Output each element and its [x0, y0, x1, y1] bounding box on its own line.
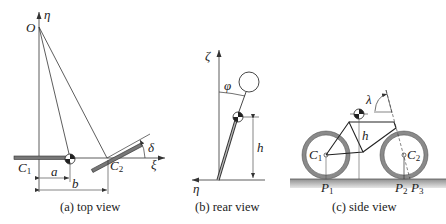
lean-angle-label: φ — [224, 78, 231, 93]
lean-angle-arc — [219, 92, 245, 96]
steer-direction-line — [107, 134, 150, 158]
xi-axis-label: ξ — [151, 157, 157, 172]
dimension-a-label: a — [51, 164, 58, 179]
height-label: h — [257, 140, 264, 155]
rear-hub-label: C1 — [309, 147, 322, 163]
eta-axis-rear-label: η — [193, 181, 199, 196]
center-of-mass-icon — [354, 109, 364, 119]
head-angle-label: λ — [365, 92, 372, 107]
front-hub — [402, 153, 406, 157]
rear-view-panel: ζ η φ h (b) rear view — [192, 48, 265, 214]
bicycle-frame — [326, 122, 363, 155]
side-view-panel: λ h C1 C2 P1 P2 P3 (c) side view — [290, 90, 446, 214]
ray-to-com — [39, 27, 70, 158]
side-view-caption: (c) side view — [332, 200, 397, 214]
front-hub-label: C2 — [407, 147, 420, 163]
dimension-b-label: b — [72, 176, 79, 191]
c2-label: C2 — [110, 158, 123, 174]
head-angle-arc — [375, 94, 387, 111]
steer-angle-arc — [140, 140, 145, 158]
top-view-panel: η O ξ δ C1 C2 a — [14, 7, 165, 214]
center-of-mass-icon — [233, 112, 243, 122]
com-height-label: h — [362, 128, 369, 143]
origin-label: O — [26, 20, 36, 35]
rear-wheel-top — [14, 156, 68, 160]
top-view-caption: (a) top view — [60, 200, 120, 214]
rear-view-caption: (b) rear view — [195, 200, 260, 214]
ray-to-c2 — [39, 27, 107, 158]
c1-label: C1 — [18, 160, 31, 176]
steer-angle-label: δ — [148, 140, 155, 155]
bicycle-model-figure: η O ξ δ C1 C2 a — [0, 0, 446, 224]
zeta-axis-label: ζ — [205, 48, 211, 63]
rider-head — [239, 72, 259, 92]
eta-axis-label: η — [44, 7, 50, 22]
